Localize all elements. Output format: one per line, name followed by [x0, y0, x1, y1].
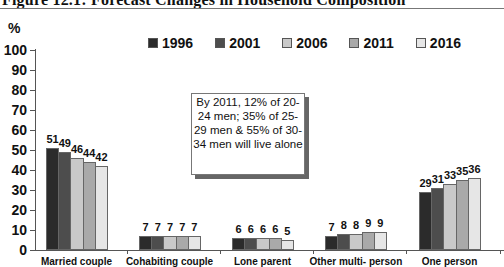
y-tick	[30, 110, 35, 111]
bar-2001	[244, 238, 257, 250]
legend-item-2011: 2011	[349, 35, 393, 51]
bar-value-label: 42	[93, 151, 109, 163]
category-label: Cohabiting couple	[124, 256, 216, 267]
bar-2001	[151, 236, 164, 250]
y-tick	[30, 50, 35, 51]
y-tick-label: 90	[0, 63, 27, 77]
y-tick-label: 60	[0, 123, 27, 137]
bar-value-label: 36	[466, 163, 482, 175]
annotation-box: By 2011, 12% of 20-24 men; 35% of 25-29 …	[191, 93, 305, 175]
bar-value-label: 9	[372, 217, 388, 229]
y-tick-label: 20	[0, 203, 27, 217]
category-label: One person	[404, 256, 496, 267]
legend-item-1996: 1996	[148, 35, 193, 51]
legend-label: 2006	[296, 35, 327, 51]
bar-2001	[58, 152, 71, 250]
legend: 19962001200620112016	[148, 35, 483, 51]
y-tick	[30, 170, 35, 171]
bar-2016	[468, 178, 481, 250]
bar-value-label: 7	[186, 221, 202, 233]
bar-2006	[256, 238, 269, 250]
bar-2001	[431, 188, 444, 250]
x-tick	[313, 250, 314, 254]
y-axis	[35, 49, 36, 250]
y-tick	[30, 210, 35, 211]
bar-2011	[83, 162, 96, 250]
legend-swatch	[416, 38, 426, 48]
x-tick	[220, 250, 221, 254]
bar-2011	[456, 180, 469, 250]
category-label: Other multi- person	[310, 256, 402, 267]
y-tick-label: 40	[0, 163, 27, 177]
bar-2011	[176, 236, 189, 250]
y-tick	[30, 130, 35, 131]
y-tick	[30, 70, 35, 71]
bar-2016	[281, 240, 294, 250]
bar-2001	[337, 234, 350, 250]
bar-2006	[349, 234, 362, 250]
x-tick	[500, 250, 501, 254]
bar-2006	[443, 184, 456, 250]
legend-item-2001: 2001	[215, 35, 260, 51]
y-tick-label: 100	[0, 43, 27, 57]
y-tick-label: 10	[0, 223, 27, 237]
legend-swatch	[349, 38, 359, 48]
bar-2011	[269, 238, 282, 250]
y-axis-unit: %	[8, 20, 20, 36]
bar-2016	[374, 232, 387, 250]
y-tick	[30, 90, 35, 91]
x-axis	[35, 250, 504, 251]
title-rule	[0, 8, 504, 9]
y-tick-label: 80	[0, 83, 27, 97]
x-tick	[127, 250, 128, 254]
bar-value-label: 5	[279, 225, 295, 237]
bar-2016	[95, 166, 108, 250]
legend-item-2006: 2006	[282, 35, 327, 51]
y-tick-label: 50	[0, 143, 27, 157]
y-tick	[30, 230, 35, 231]
bar-2006	[163, 236, 176, 250]
legend-label: 2011	[363, 35, 393, 51]
bar-2006	[70, 158, 83, 250]
legend-label: 2016	[430, 35, 461, 51]
category-label: Married couple	[31, 256, 123, 267]
y-tick	[30, 250, 35, 251]
y-tick-label: 70	[0, 103, 27, 117]
x-tick	[406, 250, 407, 254]
legend-item-2016: 2016	[416, 35, 461, 51]
legend-label: 1996	[162, 35, 193, 51]
category-label: Lone parent	[217, 256, 309, 267]
legend-swatch	[215, 38, 225, 48]
y-tick	[30, 150, 35, 151]
legend-label: 2001	[229, 35, 260, 51]
legend-swatch	[282, 38, 292, 48]
y-tick-label: 30	[0, 183, 27, 197]
bar-2011	[362, 232, 375, 250]
legend-swatch	[148, 38, 158, 48]
bar-2016	[188, 236, 201, 250]
y-tick	[30, 190, 35, 191]
y-tick-label: 0	[0, 243, 27, 257]
